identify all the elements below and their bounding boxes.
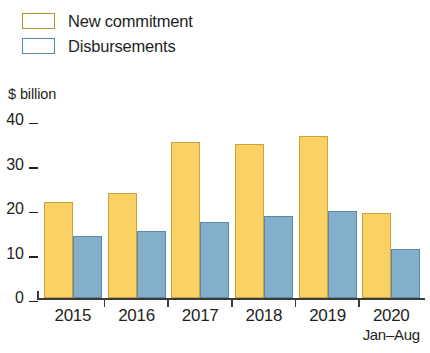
x-axis-label-2020: 2020 [359, 306, 423, 326]
bar-group-2018 [232, 120, 296, 298]
y-tick-0: 0 [0, 289, 41, 307]
x-axis-sublabel-2017 [168, 326, 232, 343]
legend-label-disbursements: Disbursements [68, 37, 175, 56]
x-axis-sublabel-2016 [105, 326, 169, 343]
x-axis-sublabels: Jan–Aug [41, 326, 423, 343]
y-tick-40: 40 [0, 111, 41, 129]
bar-2016-disbursements [137, 231, 166, 298]
y-tick-label: 10 [0, 245, 24, 263]
y-tick-label: 30 [0, 156, 24, 174]
x-axis-label-2018: 2018 [232, 306, 296, 326]
x-axis-sublabel-2015 [41, 326, 105, 343]
y-axis-origin-stub [37, 291, 39, 300]
x-axis-label-2016: 2016 [105, 306, 169, 326]
bar-2019-new-commitment [299, 136, 328, 298]
bar-group-2015 [41, 120, 105, 298]
bar-group-2017 [168, 120, 232, 298]
y-tick-label: 20 [0, 200, 24, 218]
bar-2017-disbursements [200, 222, 229, 298]
y-tick-30: 30 [0, 156, 41, 174]
y-tick-10: 10 [0, 245, 41, 263]
legend-label-new-commitment: New commitment [68, 12, 193, 31]
bar-groups [41, 120, 423, 298]
y-tick-mark [29, 167, 38, 169]
bar-group-2020 [359, 120, 423, 298]
x-axis-sublabel-2018 [232, 326, 296, 343]
legend-item-new-commitment: New commitment [22, 10, 193, 32]
bar-2016-new-commitment [108, 193, 137, 298]
bar-group-2019 [296, 120, 360, 298]
y-tick-label: 0 [0, 289, 24, 307]
legend-swatch-new-commitment [22, 13, 55, 29]
x-axis-label-2015: 2015 [41, 306, 105, 326]
x-axis-label-2017: 2017 [168, 306, 232, 326]
y-tick-mark [29, 301, 38, 303]
x-axis-label-2019: 2019 [296, 306, 360, 326]
bar-2019-disbursements [328, 211, 357, 298]
bar-2020-disbursements [391, 249, 420, 298]
y-tick-mark [29, 256, 38, 258]
bar-2015-disbursements [73, 236, 102, 298]
bar-chart: New commitment Disbursements $ billion 4… [0, 0, 430, 353]
y-axis-title: $ billion [8, 86, 56, 102]
y-tick-label: 40 [0, 111, 24, 129]
bar-group-2016 [105, 120, 169, 298]
legend-item-disbursements: Disbursements [22, 35, 193, 57]
bar-2017-new-commitment [171, 142, 200, 298]
bar-2018-disbursements [264, 216, 293, 298]
chart-legend: New commitment Disbursements [22, 10, 193, 60]
x-axis-sublabel-2019 [296, 326, 360, 343]
x-axis-sublabel-2020: Jan–Aug [359, 326, 423, 343]
y-tick-mark [29, 123, 38, 125]
y-tick-mark [29, 212, 38, 214]
bar-2015-new-commitment [44, 202, 73, 298]
y-tick-20: 20 [0, 200, 41, 218]
bar-2020-new-commitment [362, 213, 391, 298]
plot-area: 403020100 [41, 120, 423, 298]
bar-2018-new-commitment [235, 144, 264, 298]
x-axis-labels: 201520162017201820192020 [41, 306, 423, 326]
legend-swatch-disbursements [22, 38, 55, 54]
